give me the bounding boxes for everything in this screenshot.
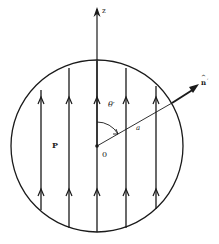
radius-label: a	[136, 124, 140, 132]
normal-vector	[172, 89, 194, 103]
point-p-label: P	[52, 140, 58, 150]
origin-point	[95, 144, 99, 148]
normal-label: n	[201, 78, 206, 87]
origin-label: 0	[102, 150, 107, 159]
angle-label: θ′	[108, 100, 115, 109]
sphere-field-diagram: z ^ n ′ θ′ a 0 P	[0, 0, 219, 244]
normal-prime-label: ′	[207, 77, 209, 84]
angle-arc	[97, 122, 118, 134]
lower-field-arrows	[38, 189, 159, 196]
upper-field-arrows	[38, 97, 159, 104]
z-axis-label: z	[102, 7, 106, 15]
